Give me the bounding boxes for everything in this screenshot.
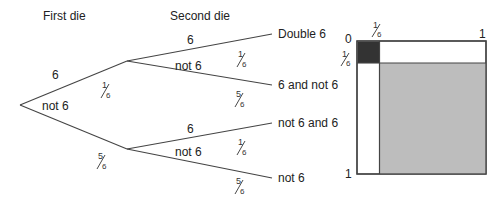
region-neither-six <box>380 63 487 174</box>
region-double-six <box>358 42 380 64</box>
square-label-bottom-left: 1 <box>345 167 352 181</box>
label-upper-six: 6 <box>187 33 194 47</box>
svg-text:6: 6 <box>102 162 107 171</box>
svg-text:6: 6 <box>106 91 111 100</box>
label-lower-not-six: not 6 <box>175 145 202 159</box>
square-top-tick-fraction: 1 6 <box>372 20 382 39</box>
branch-first-six <box>20 61 127 105</box>
svg-text:6: 6 <box>240 100 245 109</box>
outcome-not-six-and-six: not 6 and 6 <box>278 116 338 130</box>
unit-square <box>357 41 486 174</box>
outcome-not-six: not 6 <box>278 171 305 185</box>
fraction-first-upper: 1 6 <box>101 80 111 100</box>
svg-text:6: 6 <box>346 59 351 68</box>
svg-text:6: 6 <box>377 30 382 39</box>
branch-first-not-six <box>20 105 127 149</box>
svg-text:6: 6 <box>242 148 247 157</box>
fraction-lower-six: 1 6 <box>237 137 247 157</box>
label-lower-six: 6 <box>187 122 194 136</box>
fraction-upper-six: 1 6 <box>237 49 247 69</box>
label-first-six: 6 <box>52 68 59 82</box>
square-label-origin: 0 <box>345 32 352 46</box>
header-second-die: Second die <box>170 9 230 23</box>
label-upper-not-six: not 6 <box>175 59 202 73</box>
svg-text:6: 6 <box>242 60 247 69</box>
outcome-double-six: Double 6 <box>278 27 326 41</box>
header-first-die: First die <box>43 9 86 23</box>
probability-diagram: First die Second die 6 not 6 1 6 5 6 6 n… <box>0 0 502 203</box>
outcome-six-and-not-six: 6 and not 6 <box>278 78 338 92</box>
square-left-tick-fraction: 1 6 <box>341 49 351 68</box>
svg-text:6: 6 <box>240 187 245 196</box>
branch-upper-six <box>127 34 272 61</box>
label-first-not-six: not 6 <box>42 99 69 113</box>
fraction-upper-not-six: 5 6 <box>235 89 245 109</box>
fraction-first-lower: 5 6 <box>97 151 107 171</box>
square-label-top-right: 1 <box>479 27 486 41</box>
fraction-lower-not-six: 5 6 <box>235 176 245 196</box>
